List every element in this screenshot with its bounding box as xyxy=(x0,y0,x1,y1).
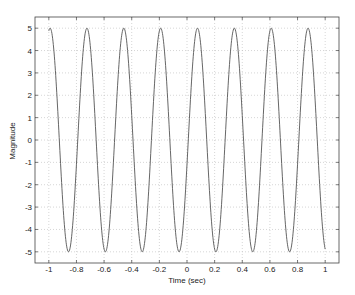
y-tick-label: 4 xyxy=(28,47,33,56)
x-tick-label: 0.2 xyxy=(209,265,221,274)
y-tick-label: -2 xyxy=(25,181,33,190)
x-tick-labels: -1-0.8-0.6-0.4-0.200.20.40.60.81 xyxy=(45,265,328,274)
line-chart: -1-0.8-0.6-0.4-0.200.20.40.60.81 543210-… xyxy=(0,0,355,295)
x-tick-label: -0.6 xyxy=(97,265,111,274)
y-axis-label: Magnitude xyxy=(8,122,17,160)
x-tick-label: 0 xyxy=(185,265,190,274)
x-tick-label: -0.8 xyxy=(70,265,84,274)
x-tick-label: -1 xyxy=(45,265,53,274)
y-tick-label: -4 xyxy=(25,225,33,234)
x-axis-label: Time (sec) xyxy=(168,276,206,285)
y-tick-label: 1 xyxy=(28,114,33,123)
y-tick-labels: 543210-1-2-3-4-5 xyxy=(25,24,33,257)
x-tick-label: -0.2 xyxy=(152,265,166,274)
y-tick-label: 2 xyxy=(28,91,33,100)
y-tick-label: 5 xyxy=(28,24,33,33)
y-tick-label: 3 xyxy=(28,69,33,78)
y-tick-label: 0 xyxy=(28,136,33,145)
y-tick-label: -5 xyxy=(25,248,33,257)
x-tick-label: 0.8 xyxy=(292,265,304,274)
x-tick-label: 0.6 xyxy=(264,265,276,274)
x-tick-label: -0.4 xyxy=(125,265,139,274)
x-tick-label: 1 xyxy=(323,265,328,274)
x-tick-label: 0.4 xyxy=(237,265,249,274)
y-tick-label: -1 xyxy=(25,158,33,167)
y-tick-label: -3 xyxy=(25,203,33,212)
